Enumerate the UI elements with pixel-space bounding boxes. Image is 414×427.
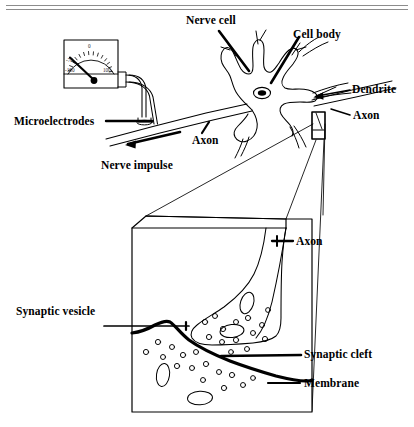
label-dendrite: Dendrite bbox=[352, 83, 396, 95]
figure-root: Nerve cell Cell body Dendrite Axon Axon … bbox=[0, 0, 414, 427]
label-axon-right: Axon bbox=[353, 109, 380, 121]
label-cell-body: Cell body bbox=[293, 28, 341, 40]
microelectrode-wires bbox=[126, 75, 158, 124]
leader-axon-right bbox=[331, 109, 350, 115]
meter-scale-minus-hundred: -100 bbox=[65, 68, 75, 73]
diagram-canvas bbox=[0, 0, 414, 427]
label-axon-inset: Axon bbox=[296, 235, 323, 247]
magnify-region-rectangle bbox=[312, 112, 325, 139]
meter-scale-minus-seventy: -70 bbox=[66, 58, 73, 63]
label-microelectrodes: Microelectrodes bbox=[14, 115, 94, 127]
leader-axon-middle bbox=[202, 122, 209, 133]
label-nerve-cell: Nerve cell bbox=[186, 14, 236, 26]
label-synaptic-vesicle: Synaptic vesicle bbox=[16, 305, 95, 317]
leader-synaptic-cleft bbox=[221, 355, 301, 356]
label-synaptic-cleft: Synaptic cleft bbox=[304, 348, 372, 360]
voltmeter-body bbox=[64, 40, 126, 88]
label-nerve-impulse: Nerve impulse bbox=[101, 159, 173, 171]
meter-scale-hundred: 100 bbox=[103, 68, 111, 73]
label-axon-middle: Axon bbox=[192, 134, 219, 146]
nucleus bbox=[254, 87, 271, 98]
meter-scale-zero: 0 bbox=[88, 44, 91, 49]
label-membrane: Membrane bbox=[304, 377, 359, 389]
leader-cell-body bbox=[271, 37, 299, 83]
axon-trunk bbox=[106, 104, 252, 146]
